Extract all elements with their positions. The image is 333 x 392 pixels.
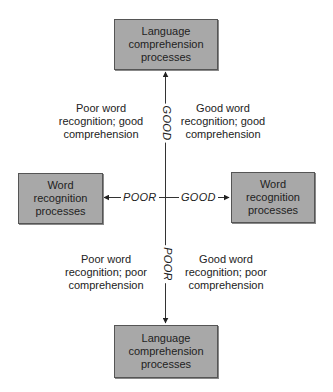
box-line: processes: [128, 51, 203, 64]
quadrant-line: comprehension: [56, 128, 146, 141]
box-line: processes: [34, 205, 88, 218]
box-line: Language: [128, 25, 203, 38]
quadrant-line: Good word: [181, 253, 271, 266]
quadrant-line: recognition; good: [178, 115, 268, 128]
box-line: recognition: [246, 191, 300, 204]
box-line: processes: [246, 204, 300, 217]
quadrant-bottom-left: Poor word recognition; poor comprehensio…: [61, 253, 151, 292]
quadrant-line: Poor word: [61, 253, 151, 266]
box-line: comprehension: [128, 38, 203, 51]
box-language-comprehension-bottom: Language comprehension processes: [114, 325, 218, 378]
box-language-comprehension-top: Language comprehension processes: [114, 19, 218, 70]
box-word-recognition-right: Word recognition processes: [231, 172, 315, 223]
quadrant-top-right: Good word recognition; good comprehensio…: [178, 102, 268, 141]
box-line: processes: [128, 358, 203, 371]
box-line: recognition: [34, 192, 88, 205]
axis-label-right-good: GOOD: [179, 191, 218, 203]
axis-label-down-poor: POOR: [162, 245, 174, 283]
quadrant-line: recognition; poor: [61, 266, 151, 279]
quadrant-line: recognition; poor: [181, 266, 271, 279]
quadrant-line: comprehension: [181, 279, 271, 292]
box-line: comprehension: [128, 345, 203, 358]
quadrant-line: Poor word: [56, 102, 146, 115]
quadrant-line: recognition; good: [56, 115, 146, 128]
axis-label-up-good: GOOD: [161, 104, 173, 143]
quadrant-line: comprehension: [61, 279, 151, 292]
axis-label-left-poor: POOR: [121, 191, 159, 203]
quadrant-top-left: Poor word recognition; good comprehensio…: [56, 102, 146, 141]
box-word-recognition-left: Word recognition processes: [18, 173, 103, 224]
quadrant-line: comprehension: [178, 128, 268, 141]
box-line: Word: [246, 178, 300, 191]
quadrant-bottom-right: Good word recognition; poor comprehensio…: [181, 253, 271, 292]
box-line: Language: [128, 332, 203, 345]
box-line: Word: [34, 179, 88, 192]
quadrant-line: Good word: [178, 102, 268, 115]
